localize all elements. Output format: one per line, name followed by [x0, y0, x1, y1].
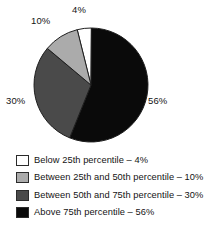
legend-swatch-icon [16, 155, 29, 166]
legend-item: Below 25th percentile – 4% [16, 154, 216, 166]
legend-item-label: Below 25th percentile – 4% [34, 155, 148, 166]
legend-item: Above 75th percentile – 56% [16, 207, 216, 219]
legend-swatch-icon [16, 172, 29, 183]
pie-chart-area: 4% 10% 30% 56% [0, 0, 222, 150]
pie-slice-group [34, 28, 148, 142]
legend-swatch-icon [16, 207, 29, 218]
legend-swatch-icon [16, 190, 29, 201]
legend-item: Between 50th and 75th percentile – 30% [16, 189, 216, 201]
slice-label-10: 10% [31, 15, 50, 26]
legend-item-label: Above 75th percentile – 56% [34, 207, 154, 218]
chart-legend: Below 25th percentile – 4%Between 25th a… [16, 154, 216, 224]
legend-item-label: Between 50th and 75th percentile – 30% [34, 190, 203, 201]
slice-label-56: 56% [148, 95, 167, 106]
legend-item-label: Between 25th and 50th percentile – 10% [34, 172, 203, 183]
legend-item: Between 25th and 50th percentile – 10% [16, 172, 216, 184]
slice-label-4: 4% [72, 4, 86, 15]
slice-label-30: 30% [6, 95, 25, 106]
